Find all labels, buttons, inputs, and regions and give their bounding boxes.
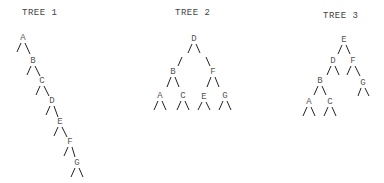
tree-2-edges bbox=[154, 44, 231, 110]
tree-edges bbox=[0, 0, 384, 183]
tree-1-edges bbox=[17, 43, 83, 177]
tree-3-edges bbox=[303, 45, 369, 116]
